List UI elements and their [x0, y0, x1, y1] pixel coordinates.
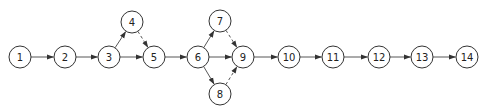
node-7: 7: [209, 10, 231, 32]
edge-6-8-arrow: [204, 66, 215, 84]
node-label: 1: [17, 52, 23, 63]
node-2: 2: [54, 46, 76, 68]
node-12: 12: [368, 46, 390, 68]
node-13: 13: [411, 46, 433, 68]
node-label: 7: [217, 16, 223, 27]
node-label: 6: [195, 52, 201, 63]
edge-7-9-dummy-arrow: [226, 30, 237, 47]
node-6: 6: [187, 46, 209, 68]
edge-3-4-arrow: [115, 32, 126, 48]
network-diagram: 1234567891011121314: [0, 0, 486, 112]
node-1: 1: [9, 46, 31, 68]
nodes-layer: 1234567891011121314: [9, 10, 478, 105]
node-label: 2: [62, 52, 68, 63]
node-5: 5: [143, 46, 165, 68]
node-label: 3: [106, 52, 112, 63]
node-3: 3: [98, 46, 120, 68]
node-10: 10: [278, 46, 300, 68]
edge-6-7-arrow: [204, 31, 214, 48]
node-label: 11: [327, 52, 340, 63]
node-label: 10: [283, 52, 296, 63]
edge-4-5-dummy-arrow: [138, 31, 148, 47]
node-label: 13: [416, 52, 429, 63]
node-label: 5: [151, 52, 157, 63]
edge-8-9-dummy-arrow: [226, 67, 237, 85]
node-label: 8: [217, 89, 223, 100]
node-11: 11: [322, 46, 344, 68]
node-label: 14: [461, 52, 474, 63]
node-label: 4: [129, 17, 135, 28]
node-14: 14: [456, 46, 478, 68]
node-9: 9: [232, 46, 254, 68]
node-label: 9: [240, 52, 246, 63]
node-label: 12: [373, 52, 386, 63]
node-8: 8: [209, 83, 231, 105]
node-4: 4: [121, 11, 143, 33]
